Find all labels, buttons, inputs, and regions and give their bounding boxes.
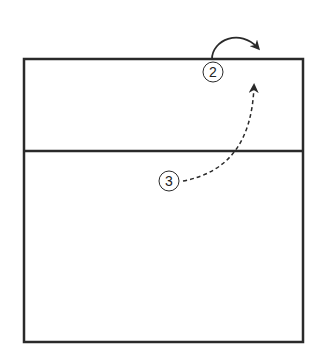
court-diagram: 2 3: [0, 0, 324, 363]
player-3-movement-arrow: [183, 86, 254, 181]
player-2-marker: 2: [203, 62, 223, 82]
player-2-movement-arrow: [212, 38, 258, 59]
court-outline: [24, 59, 303, 342]
player-3-marker: 3: [159, 171, 179, 191]
player-3-label: 3: [165, 173, 173, 189]
player-2-label: 2: [209, 64, 217, 80]
